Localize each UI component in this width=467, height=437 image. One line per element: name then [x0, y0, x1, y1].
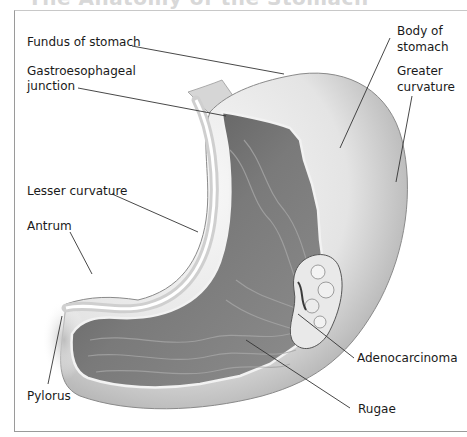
label-body-line1: Body of: [397, 24, 443, 39]
label-greater-line1: Greater: [397, 64, 443, 79]
label-pylorus: Pylorus: [27, 389, 71, 404]
label-adenocarcinoma: Adenocarcinoma: [357, 351, 458, 366]
label-antrum: Antrum: [27, 219, 72, 234]
label-lesser-curvature: Lesser curvature: [27, 184, 127, 199]
label-body-line2: stomach: [397, 40, 449, 55]
label-ge-junction-line2: junction: [27, 79, 75, 94]
label-fundus: Fundus of stomach: [27, 35, 141, 50]
label-ge-junction-line1: Gastroesophageal: [27, 64, 136, 79]
label-greater-line2: curvature: [397, 80, 455, 95]
label-rugae: Rugae: [358, 402, 396, 417]
